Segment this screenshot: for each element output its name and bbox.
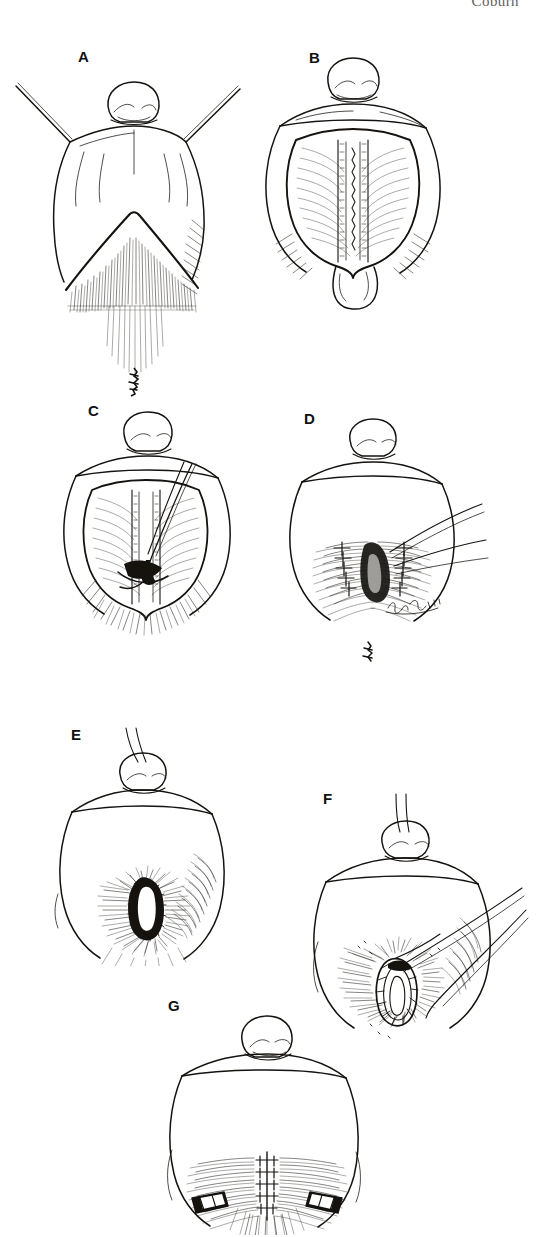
panel-c-illustration <box>40 404 255 674</box>
panel-b-illustration <box>240 48 470 318</box>
panel-a-illustration <box>8 34 248 384</box>
panel-e-illustration <box>52 726 272 966</box>
panel-label-b: B <box>309 49 320 66</box>
panel-label-c: C <box>88 402 99 419</box>
panel-label-a: A <box>78 48 89 65</box>
running-head: Coburn <box>472 0 519 10</box>
panel-label-f: F <box>323 790 332 807</box>
figure-page: Coburn <box>0 0 541 1237</box>
panel-d-illustration <box>268 412 498 672</box>
panel-g-illustration <box>150 1000 390 1235</box>
panel-label-e: E <box>71 726 81 743</box>
panel-label-d: D <box>304 410 315 427</box>
panel-label-g: G <box>168 997 180 1014</box>
